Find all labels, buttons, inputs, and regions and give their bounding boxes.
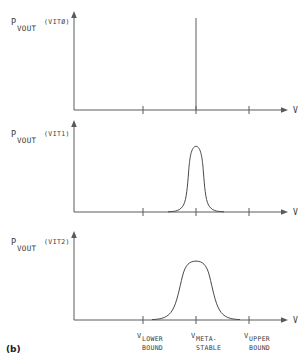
tick-label-meta-stable-line1: META- xyxy=(196,335,217,343)
tick-label-lower-bound-line1: LOWER xyxy=(142,335,163,343)
tick-label-meta-stable-line2: STABLE xyxy=(196,344,221,352)
tick-label-upper-bound-line2: BOUND xyxy=(249,344,270,352)
panel-vit1-ylabel-subscript: VOUT xyxy=(17,136,36,145)
panel-vit2-x-axis-label: V xyxy=(293,316,298,325)
panel-vit2-x-axis-arrowhead xyxy=(281,317,288,323)
panel-vit0-ylabel-base: P xyxy=(11,17,16,27)
panel-vit1-ylabel-argument: (VIT1) xyxy=(44,130,70,138)
figure-caption: (b) xyxy=(6,344,21,354)
tick-label-lower-bound-line2: BOUND xyxy=(142,344,163,352)
panel-vit1-ylabel-base: P xyxy=(11,129,16,139)
panel-vit0-x-axis-arrowhead xyxy=(281,107,288,113)
panel-vit0-ylabel-argument: (VITØ) xyxy=(44,18,70,26)
panel-vit2-ylabel-argument: (VIT2) xyxy=(44,238,70,246)
panel-vit2-gaussian-curve xyxy=(152,261,240,320)
panel-vit1-y-axis-arrowhead xyxy=(71,120,77,127)
panel-vit1-x-axis-label: V xyxy=(293,208,298,217)
panel-vit2-ylabel-base: P xyxy=(11,237,16,247)
tick-label-upper-bound-line1: UPPER xyxy=(249,335,270,343)
figure-probability-density-panels: P VOUT (VITØ) V P VOUT (VIT1) V P VOU xyxy=(0,0,306,364)
panel-vit0-x-axis-label: V xyxy=(293,106,298,115)
panel-vit1: P VOUT (VIT1) V xyxy=(11,120,298,217)
panel-vit2-y-axis-arrowhead xyxy=(71,231,77,238)
panel-vit1-gaussian-curve xyxy=(168,146,224,212)
panel-vit0: P VOUT (VITØ) V xyxy=(11,11,298,115)
panel-vit0-y-axis-arrowhead xyxy=(71,11,77,18)
panel-vit1-x-axis-arrowhead xyxy=(281,209,288,215)
panel-vit2: P VOUT (VIT2) V xyxy=(11,231,298,325)
panel-vit2-ylabel-subscript: VOUT xyxy=(17,244,36,253)
panel-vit0-ylabel-subscript: VOUT xyxy=(17,24,36,33)
x-tick-labels: V LOWER BOUND V META- STABLE V UPPER BOU… xyxy=(137,332,270,352)
